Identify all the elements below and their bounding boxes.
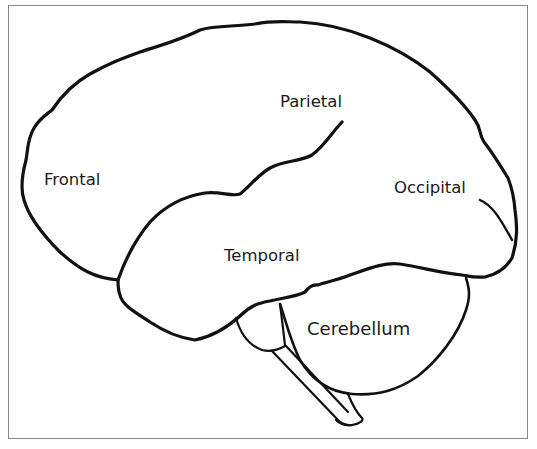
brain-outline-illustration <box>0 0 537 449</box>
medulla-stalk-inner <box>286 346 348 412</box>
occipital-sulcus <box>480 200 512 240</box>
label-occipital-lobe: Occipital <box>394 180 466 197</box>
label-parietal-lobe: Parietal <box>280 94 342 111</box>
label-temporal-lobe: Temporal <box>224 248 300 265</box>
medulla-stalk <box>272 351 352 425</box>
label-frontal-lobe: Frontal <box>44 172 100 189</box>
label-cerebellum: Cerebellum <box>307 320 410 338</box>
